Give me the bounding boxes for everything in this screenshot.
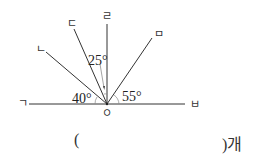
label-digeut: ㄷ xyxy=(67,17,77,30)
label-mieum: ㅁ xyxy=(154,28,164,41)
label-bieup: ㅂ xyxy=(190,98,200,111)
angle-arc-40 xyxy=(95,97,97,104)
angle-value-25: 25° xyxy=(88,53,108,68)
label-origin: ㅇ xyxy=(102,107,112,120)
label-nieun: ㄴ xyxy=(36,43,46,56)
angle-value-55: 55° xyxy=(122,89,142,104)
label-giyeok: ㄱ xyxy=(18,97,28,110)
angle-diagram: ㄱ ㄴ ㄷ ㄹ ㅁ ㅂ ㅇ 40° 25° 55° xyxy=(0,0,260,159)
angle-arc-55 xyxy=(114,95,119,104)
answer-close-unit: )개 xyxy=(222,131,242,155)
label-rieul: ㄹ xyxy=(102,10,112,23)
angle-value-40: 40° xyxy=(72,91,92,106)
origin-point xyxy=(106,103,108,105)
answer-open-paren: ( xyxy=(74,131,79,149)
pointer-arrow-icon xyxy=(103,86,105,90)
